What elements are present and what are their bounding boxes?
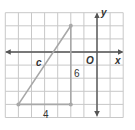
hypotenuse-label: c	[36, 57, 42, 68]
origin-label: O	[86, 55, 94, 66]
grid	[5, 13, 123, 118]
horizontal-leg-label: 4	[43, 109, 49, 120]
x-axis-label: x	[114, 55, 121, 66]
y-axis-label: y	[100, 7, 107, 18]
coordinate-plane-figure: y x O c 6 4	[0, 0, 135, 130]
vertical-leg-label: 6	[74, 68, 80, 79]
vertex-point	[69, 102, 73, 106]
vertex-point	[69, 24, 73, 28]
vertex-point	[16, 102, 20, 106]
